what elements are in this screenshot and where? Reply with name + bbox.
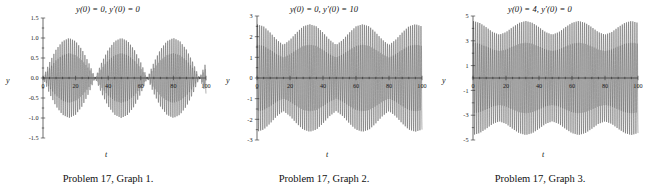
- y-tick-label-2-0: -3: [247, 136, 252, 143]
- plot-area-graph-3: y(0) = 4, y′(0) = 0 y t -5-3-11350204060…: [432, 0, 648, 163]
- y-tick-label-1-6: 1.5: [31, 14, 39, 21]
- x-tick-label-1-3: 60: [138, 82, 144, 89]
- y-tick-label-1-0: -1.5: [29, 134, 39, 141]
- y-tick-label-2-4: 1: [249, 54, 252, 61]
- plot-title-graph-3: y(0) = 4, y′(0) = 0: [432, 4, 648, 14]
- figure-row: y(0) = 0, y′(0) = 0 y t -1.5-1.0-0.50.00…: [0, 0, 650, 188]
- plot-area-graph-2: y(0) = 0, y′(0) = 10 y t -3-2-1012302040…: [216, 0, 432, 163]
- x-tick-label-2-0: 0: [255, 82, 258, 89]
- x-axis-label-graph-2: t: [326, 150, 328, 159]
- y-tick-label-1-2: -0.5: [29, 94, 39, 101]
- x-tick-label-3-1: 20: [503, 82, 509, 89]
- x-tick-label-3-4: 80: [602, 82, 608, 89]
- panel-graph-1: y(0) = 0, y′(0) = 0 y t -1.5-1.0-0.50.00…: [0, 0, 216, 188]
- x-tick-label-1-0: 0: [41, 82, 44, 89]
- caption-graph-1: Problem 17, Graph 1.: [0, 173, 216, 184]
- y-tick-label-1-5: 1.0: [31, 34, 39, 41]
- caption-graph-3: Problem 17, Graph 3.: [432, 173, 648, 184]
- x-tick-label-2-1: 20: [287, 82, 293, 89]
- caption-graph-2: Problem 17, Graph 2.: [216, 173, 432, 184]
- y-tick-label-3-3: 1: [465, 62, 468, 69]
- y-tick-label-1-3: 0.0: [31, 74, 39, 81]
- panel-graph-2: y(0) = 0, y′(0) = 10 y t -3-2-1012302040…: [216, 0, 432, 188]
- plot-title-graph-1: y(0) = 0, y′(0) = 0: [0, 4, 216, 14]
- y-tick-label-3-4: 3: [465, 37, 468, 44]
- x-tick-label-2-4: 80: [386, 82, 392, 89]
- y-tick-label-2-2: -1: [247, 95, 252, 102]
- y-tick-label-1-1: -1.0: [29, 114, 39, 121]
- plot-area-graph-1: y(0) = 0, y′(0) = 0 y t -1.5-1.0-0.50.00…: [0, 0, 216, 163]
- chart-svg-graph-3: -5-3-1135020406080100: [432, 0, 648, 163]
- y-tick-label-3-2: -1: [463, 87, 468, 94]
- x-tick-label-1-5: 100: [201, 82, 210, 89]
- x-tick-label-2-5: 100: [417, 82, 426, 89]
- x-tick-label-2-2: 40: [320, 82, 326, 89]
- x-axis-label-graph-1: t: [105, 150, 107, 159]
- y-tick-label-2-5: 2: [249, 33, 252, 40]
- x-tick-label-1-1: 20: [73, 82, 79, 89]
- y-tick-label-3-1: -3: [463, 111, 468, 118]
- y-axis-label-graph-2: y: [226, 76, 230, 85]
- y-tick-label-2-3: 0: [249, 74, 252, 81]
- x-tick-label-3-0: 0: [471, 82, 474, 89]
- x-tick-label-1-4: 80: [170, 82, 176, 89]
- chart-svg-graph-1: -1.5-1.0-0.50.00.51.01.5020406080100: [0, 0, 216, 163]
- y-axis-label-graph-1: y: [6, 76, 10, 85]
- y-tick-label-3-0: -5: [463, 136, 468, 143]
- x-tick-label-2-3: 60: [353, 82, 359, 89]
- chart-svg-graph-2: -3-2-10123020406080100: [216, 0, 432, 163]
- x-tick-label-3-3: 60: [569, 82, 575, 89]
- x-tick-label-3-5: 100: [633, 82, 642, 89]
- y-tick-label-1-4: 0.5: [31, 54, 39, 61]
- plot-title-graph-2: y(0) = 0, y′(0) = 10: [216, 4, 432, 14]
- x-axis-label-graph-3: t: [542, 150, 544, 159]
- panel-graph-3: y(0) = 4, y′(0) = 0 y t -5-3-11350204060…: [432, 0, 648, 188]
- x-tick-label-3-2: 40: [536, 82, 542, 89]
- y-axis-label-graph-3: y: [442, 76, 446, 85]
- y-tick-label-2-1: -2: [247, 116, 252, 123]
- x-tick-label-1-2: 40: [105, 82, 111, 89]
